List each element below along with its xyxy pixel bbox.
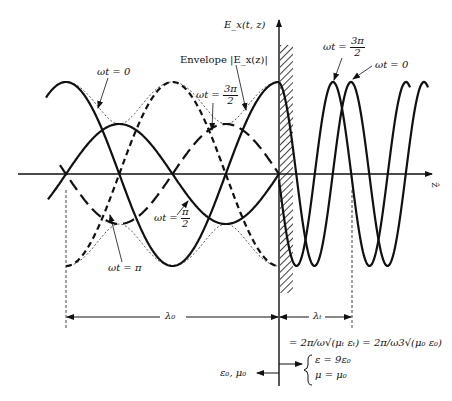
lambdat-formula: = 2π/ω√(μₜ εₜ) = 2π/ω3√(μ₀ ε₀): [289, 338, 442, 348]
lambdat-label: λₜ: [311, 311, 324, 321]
wtpi2-label: ωt = π2: [154, 207, 190, 229]
wt3pi2-left-fraction: 3π2: [223, 84, 238, 106]
standing-wave-diagram: E_x(t, z) ẑ Envelope |E_x(z)| ωt = 0 ωt …: [0, 0, 452, 401]
leader-wtpi: [110, 215, 122, 262]
envelope-label: Envelope |E_x(z)|: [180, 55, 268, 65]
wt3pi2-left-prefix: ωt =: [196, 89, 220, 100]
wt3pi2-left-label: ωt = 3π2: [196, 84, 238, 106]
leader-wt0-right: [353, 66, 372, 79]
leader-wt0-left: [98, 78, 108, 108]
medium-left-label: ε₀, μ₀: [220, 368, 246, 378]
wt0-left-label: ωt = 0: [97, 67, 130, 77]
numerator: 3π: [223, 84, 238, 96]
numerator: π: [181, 207, 190, 219]
leader-wt3pi2-right: [334, 58, 342, 80]
denominator: 2: [182, 219, 188, 230]
wt3pi2-right-fraction: 3π2: [350, 36, 365, 58]
medium-right-mu: μ = μ₀: [315, 370, 347, 380]
lambda0-label: λ₀: [163, 311, 177, 321]
envelope-lower-curve: [66, 224, 279, 266]
wt3pi2-right-prefix: ωt =: [323, 41, 347, 52]
medium-right-brace: [304, 355, 312, 385]
wtpi2-fraction: π2: [181, 207, 190, 229]
wt0-right-label: ωt = 0: [375, 60, 408, 70]
z-axis-label: ẑ: [430, 182, 440, 187]
wt3pi2-right-label: ωt = 3π2: [323, 36, 365, 58]
numerator: 3π: [350, 36, 365, 48]
denominator: 2: [227, 96, 233, 107]
medium-right-epsilon: ε = 9ε₀: [315, 355, 351, 365]
wtpi2-prefix: ωt =: [154, 212, 178, 223]
leader-wt3pi2-left: [212, 103, 213, 130]
vertical-axis-label: E_x(t, z): [224, 20, 265, 30]
wtpi-label: ωt = π: [108, 263, 141, 273]
denominator: 2: [354, 48, 360, 59]
